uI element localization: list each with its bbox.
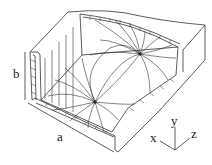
field-lines-upper [90,20,176,92]
x-axis-label: x [150,131,157,144]
floor-right-edge [112,47,178,132]
y-axis-label: y [171,114,178,127]
x-axis-arrow [160,141,175,150]
lower-sink-point [94,101,97,104]
field-lines-lower [48,45,140,132]
floor-back-left-edge [41,55,82,100]
top-right-edge [183,25,205,50]
axes [160,127,190,150]
back-left-wall-edge [80,14,82,55]
waveguide-diagram [0,0,212,165]
dimension-a-label: a [57,130,63,143]
z-axis-label: z [191,127,197,140]
z-axis-arrow [175,138,190,150]
dimension-b-label: b [13,67,20,80]
floor-front-edge [41,100,112,132]
upper-sink-point [139,53,142,56]
